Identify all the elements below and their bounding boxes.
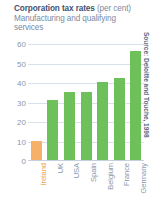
x-tick-label-germany: Germany — [139, 163, 148, 194]
x-tick-label-spain: Spain — [89, 163, 98, 182]
y-tick-label-60: 60 — [2, 40, 26, 49]
chart-subtitle-line-1: Manufacturing and qualifying — [14, 14, 138, 24]
corporation-tax-rates-chart: Corporation tax rates (per cent) Manufac… — [0, 0, 167, 216]
bar-series — [28, 44, 144, 161]
bar-spain — [81, 92, 92, 160]
bar-germany — [130, 51, 141, 160]
chart-title-unit: (per cent) — [97, 4, 131, 13]
y-tick-label-30: 30 — [2, 98, 26, 107]
x-tick-label-belgium: Belgium — [106, 163, 115, 190]
chart-source: Source: Deloitte and Touche, 1998 — [143, 32, 150, 138]
chart-subtitle-line-2: services — [14, 23, 138, 33]
y-axis: 0102030405060 — [0, 44, 26, 161]
bar-belgium — [97, 82, 108, 160]
bar-ireland — [31, 141, 42, 161]
x-axis-labels: IrelandUKUSASpainBelgiumFranceGermany — [28, 163, 144, 215]
y-tick-label-10: 10 — [2, 137, 26, 146]
y-tick-label-50: 50 — [2, 59, 26, 68]
bar-usa — [64, 92, 75, 160]
bar-uk — [47, 100, 58, 160]
x-tick-label-uk: UK — [56, 163, 65, 173]
x-tick-label-ireland: Ireland — [39, 163, 48, 186]
chart-title: Corporation tax rates (per cent) — [14, 4, 138, 14]
y-tick-label-20: 20 — [2, 118, 26, 127]
y-tick-label-40: 40 — [2, 79, 26, 88]
chart-title-main: Corporation tax rates — [14, 4, 95, 13]
x-tick-label-usa: USA — [72, 163, 81, 178]
x-tick-label-france: France — [122, 163, 131, 186]
bar-france — [114, 78, 125, 160]
y-tick-label-0: 0 — [2, 157, 26, 166]
chart-title-block: Corporation tax rates (per cent) Manufac… — [14, 4, 138, 33]
